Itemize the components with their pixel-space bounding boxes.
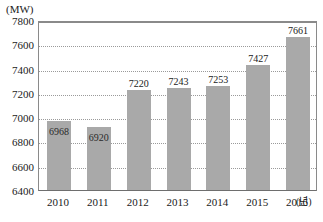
bar-value-label: 7661 <box>288 26 308 36</box>
plot-area: 6968692072207243725374277661 <box>38 21 317 191</box>
y-axis-tick-label: 6400 <box>0 186 34 197</box>
bar-slot: 7253 <box>206 22 230 190</box>
bar-value-label: 6920 <box>89 133 109 143</box>
bar <box>127 90 151 190</box>
bar-value-label: 6968 <box>49 127 69 137</box>
bar <box>206 86 230 190</box>
x-axis-unit-label: (년) <box>296 196 312 208</box>
bar-slot: 6968 <box>47 22 71 190</box>
bar-value-label: 7253 <box>208 75 228 85</box>
bar-slot: 7661 <box>286 22 310 190</box>
x-axis-tick-label: 2014 <box>197 196 237 208</box>
bar <box>246 65 270 190</box>
bar-value-label: 7427 <box>248 54 268 64</box>
y-axis-tick-label: 6800 <box>0 137 34 148</box>
y-axis-tick-label: 7000 <box>0 113 34 124</box>
x-axis-tick-label: 2010 <box>38 196 78 208</box>
x-axis-tick-label: 2015 <box>237 196 277 208</box>
bar-slot: 7427 <box>246 22 270 190</box>
bars-layer: 6968692072207243725374277661 <box>39 22 316 190</box>
bar-value-label: 7243 <box>169 77 189 87</box>
bar <box>286 37 310 190</box>
bar-chart: (MW) 78007600740072007000680066006400 69… <box>0 0 323 222</box>
x-axis-tick-label: 2012 <box>118 196 158 208</box>
bar-slot: 7220 <box>127 22 151 190</box>
x-axis-tick-label: 2011 <box>78 196 118 208</box>
y-axis-tick-label: 7600 <box>0 40 34 51</box>
y-axis-tick-label: 7200 <box>0 89 34 100</box>
y-axis-unit-label: (MW) <box>6 3 34 15</box>
bar-slot: 6920 <box>87 22 111 190</box>
bar-slot: 7243 <box>167 22 191 190</box>
x-axis-tick-label: 2013 <box>158 196 198 208</box>
y-axis-tick-label: 7400 <box>0 65 34 76</box>
y-axis-tick-label: 7800 <box>0 16 34 27</box>
bar <box>167 88 191 190</box>
bar-value-label: 7220 <box>129 79 149 89</box>
y-axis-tick-label: 6600 <box>0 162 34 173</box>
